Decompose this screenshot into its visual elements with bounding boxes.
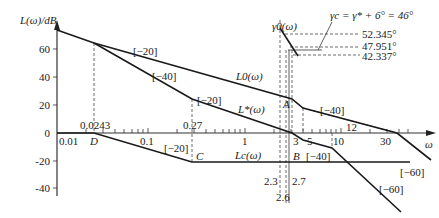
curve-lc [57, 133, 410, 162]
y-tick-neg20: -20 [35, 155, 50, 167]
label-2.7: 2.7 [292, 175, 306, 187]
y-tick-0: 0 [45, 127, 51, 139]
point-b: B [293, 150, 300, 162]
label-l0: L0(ω) [235, 70, 263, 83]
label-0.27: 0.27 [183, 119, 203, 131]
slope-lc-c: [−60] [400, 166, 425, 178]
slope-l0-a: [−20] [133, 45, 158, 57]
point-d: D [89, 135, 98, 147]
x-axis-arrow-icon [426, 130, 436, 136]
gamma-c-leader [318, 22, 332, 50]
y-tick-60: 60 [39, 43, 51, 55]
y-tick-40: 40 [39, 71, 51, 83]
slope-lstar-a: [−40] [152, 70, 177, 82]
gamma-c-equation: γc = γ* + 6° = 46° [330, 9, 414, 21]
slope-lc-b: [−40] [306, 150, 331, 162]
y-tick-neg40: -40 [35, 182, 50, 194]
slope-lc-a: [−20] [164, 142, 189, 154]
point-c: C [196, 150, 204, 162]
label-lc: Lc(ω) [234, 149, 261, 162]
label-3: 3 [293, 135, 299, 147]
point-a: A [282, 98, 290, 110]
slope-lstar-b: [−20] [197, 94, 222, 106]
x-tick-0.1: 0.1 [140, 135, 154, 147]
label-5: 5 [307, 135, 313, 147]
x-tick-10: 10 [333, 135, 345, 147]
x-ticks [86, 128, 408, 133]
phase-value-3: 42.337° [362, 50, 397, 62]
label-0.0243: 0.0243 [80, 119, 111, 131]
slope-l0-b: [−40] [320, 104, 345, 116]
label-12: 12 [346, 121, 357, 133]
x-tick-1: 1 [242, 135, 248, 147]
x-axis-label: ω [425, 138, 433, 150]
x-tick-0.01: 0.01 [59, 135, 78, 147]
label-2.3: 2.3 [264, 175, 278, 187]
label-lstar: L*(ω) [237, 103, 265, 116]
bode-diagram: 60 40 20 0 -20 -40 L(ω)/dB ω 0.01 0.1 1 … [0, 0, 439, 218]
y-axis-label: L(ω)/dB [19, 14, 57, 27]
phase-value-1: 52.345° [362, 28, 397, 40]
label-gamma0: γ0(ω) [272, 20, 297, 33]
slope-l0-c: [−60] [379, 183, 404, 195]
y-tick-20: 20 [39, 99, 51, 111]
label-30: 30 [380, 135, 392, 147]
label-2.6: 2.6 [276, 191, 290, 203]
